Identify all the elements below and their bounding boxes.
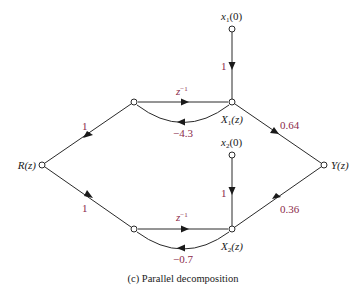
figure-caption: (c) Parallel decomposition [128,273,240,285]
node-r [39,162,45,168]
arrow-lower-delay-icon [181,226,189,233]
gain-x2-init: 1 [221,187,227,199]
arrow-x1-init-icon [229,62,236,70]
signal-flow-graph: R(z) Y(z) x1(0) X1(z) x2(0) X2(z) 1 1 z−… [0,0,364,296]
arrow-x2-init-icon [229,187,236,195]
node-x2 [229,226,235,232]
arrow-x1-to-y-icon [270,127,279,134]
gain-r-to-lower: 1 [82,202,88,214]
node-upper-left [131,99,137,105]
node-x1-init [229,26,235,32]
label-x2-init: x2(0) [220,136,243,150]
node-x1 [229,99,235,105]
gain-upper-feedback: −4.3 [173,127,193,139]
gain-lower-feedback: −0.7 [173,253,193,265]
node-y [321,162,327,168]
arrow-upper-delay-icon [181,99,189,106]
arrow-r-to-lower-icon [84,190,93,198]
node-lower-left [131,226,137,232]
arrow-lower-feedback-icon [177,245,185,252]
label-x2: X2(z) [220,240,243,254]
label-x1: X1(z) [220,113,243,127]
edge-r-to-lower [45,167,131,227]
label-y: Y(z) [331,159,349,172]
label-x1-init: x1(0) [220,10,243,24]
gain-x2-to-y: 0.36 [280,203,300,215]
label-r: R(z) [17,159,37,172]
gain-r-to-upper: 1 [82,120,88,132]
arrow-r-to-upper-icon [83,131,93,138]
gain-upper-delay: z−1 [175,85,188,97]
gain-x1-init: 1 [221,60,227,72]
arrow-upper-feedback-icon [177,119,185,126]
node-x2-init [229,152,235,158]
gain-lower-delay: z−1 [175,211,188,223]
gain-x1-to-y: 0.64 [280,119,300,131]
gain-labels: 1 1 z−1 −4.3 1 0.64 z−1 −0.7 1 0.36 [82,60,300,265]
